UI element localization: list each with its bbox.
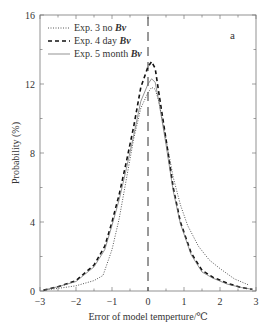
x-tick-label: −1 [107,296,118,307]
x-tick-label: −2 [71,296,82,307]
y-tick-label: 12 [25,79,35,90]
y-tick-label: 4 [30,217,35,228]
x-tick-label: 3 [254,296,259,307]
legend-label: Exp. 4 day Bv [74,35,131,46]
legend-label: Exp. 5 month Bv [74,48,142,59]
legend-label: Exp. 3 no Bv [74,22,127,33]
y-tick-label: 8 [30,148,35,159]
y-tick-label: 16 [25,10,35,21]
x-tick-label: 2 [218,296,223,307]
x-tick-labels: −3−2−10123 [35,296,259,307]
y-tick-labels: 0481216 [25,10,35,297]
x-axis-title: Error of model temperture/℃ [88,311,207,322]
x-tick-label: 1 [182,296,187,307]
x-tick-label: −3 [35,296,46,307]
x-tick-label: 0 [146,296,151,307]
legend: Exp. 3 no BvExp. 4 day BvExp. 5 month Bv [48,22,142,59]
series-line-dotted [44,87,249,290]
y-axis-title: Probability (%) [10,122,22,184]
panel-label: a [230,29,235,41]
y-tick-label: 0 [30,286,35,297]
probability-chart: −3−2−10123 0481216 Exp. 3 no BvExp. 4 da… [0,0,267,328]
